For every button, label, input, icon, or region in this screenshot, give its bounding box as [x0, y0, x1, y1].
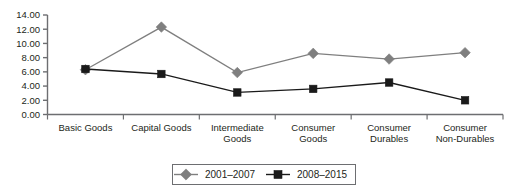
y-tick-label: 6.00 [22, 66, 41, 77]
x-tick-label: Basic Goods [59, 122, 113, 133]
series-line [85, 27, 465, 72]
diamond-marker-icon [156, 22, 167, 33]
x-axis-ticks: Basic GoodsCapital GoodsIntermediateGood… [48, 115, 504, 145]
x-tick-label: Goods [299, 133, 327, 144]
y-tick-label: 12.00 [16, 24, 40, 35]
diamond-marker-icon [308, 48, 319, 59]
x-tick-label: Durables [370, 133, 408, 144]
y-tick-label: 4.00 [22, 80, 41, 91]
diamond-marker-icon [232, 67, 243, 78]
y-tick-label: 10.00 [16, 38, 40, 49]
x-tick-label: Consumer [443, 122, 487, 133]
square-marker-icon [158, 70, 166, 78]
y-tick-label: 2.00 [22, 95, 41, 106]
x-tick-label: Non-Durables [436, 133, 495, 144]
legend: 2001–20072008–2015 [173, 165, 356, 185]
diamond-marker-icon [460, 47, 471, 58]
diamond-marker-icon [384, 54, 395, 65]
x-tick-label: Goods [223, 133, 251, 144]
x-tick-label: Intermediate [211, 122, 264, 133]
chart-canvas: 0.002.004.006.008.0010.0012.0014.00 Basi… [0, 0, 513, 194]
square-marker-icon [461, 97, 469, 105]
axes [48, 15, 504, 115]
y-tick-label: 0.00 [22, 109, 41, 120]
square-marker-icon [385, 79, 393, 87]
square-marker-icon [234, 89, 242, 97]
y-tick-label: 8.00 [22, 52, 41, 63]
line-chart: 0.002.004.006.008.0010.0012.0014.00 Basi… [0, 0, 513, 194]
square-marker-icon [82, 65, 90, 73]
series-2 [82, 65, 469, 104]
x-tick-label: Consumer [367, 122, 411, 133]
x-tick-label: Capital Goods [131, 122, 191, 133]
square-marker-icon [309, 85, 317, 93]
y-axis-ticks: 0.002.004.006.008.0010.0012.0014.00 [16, 9, 47, 120]
x-tick-label: Consumer [291, 122, 335, 133]
series-line [85, 69, 465, 100]
data-series-layer [80, 22, 470, 104]
y-tick-label: 14.00 [16, 9, 40, 20]
legend-entry-label: 2001–2007 [205, 169, 255, 180]
series-1 [80, 22, 470, 78]
legend-entry-label: 2008–2015 [297, 169, 347, 180]
square-marker-icon [274, 171, 282, 179]
